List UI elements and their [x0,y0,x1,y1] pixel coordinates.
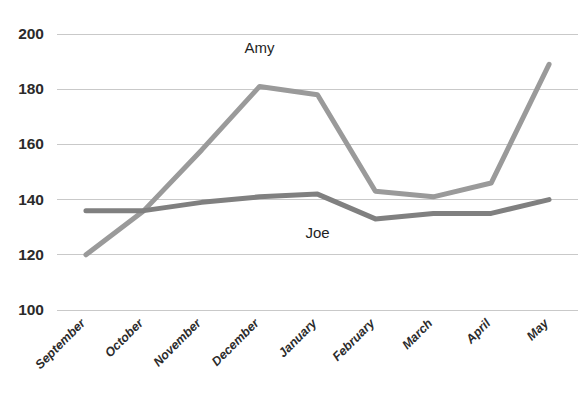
y-tick-label: 180 [18,80,44,97]
y-tick-label: 200 [18,25,44,42]
y-tick-label: 140 [18,191,44,208]
line-chart: 100120140160180200 SeptemberOctoberNovem… [0,0,587,402]
series-label-amy: Amy [245,39,276,56]
y-tick-label: 160 [18,135,44,152]
y-tick-label: 100 [18,301,44,318]
chart-canvas: 100120140160180200 SeptemberOctoberNovem… [0,0,587,402]
series-label-joe: Joe [305,224,329,241]
y-tick-label: 120 [18,246,44,263]
